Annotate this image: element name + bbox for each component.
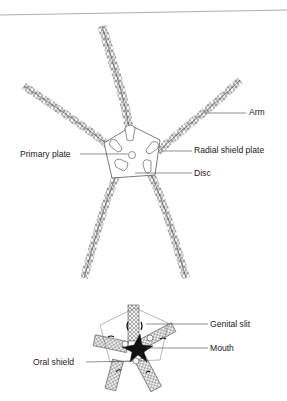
label-radial-shield-plate: Radial shield plate [194, 146, 264, 155]
oral-shield [133, 358, 139, 364]
arm-left [24, 86, 112, 148]
oral-view [93, 305, 176, 392]
label-primary-plate: Primary plate [20, 150, 71, 159]
label-arm: Arm [249, 108, 265, 117]
primary-plate [129, 152, 136, 159]
arm-right [158, 80, 240, 152]
label-oral-shield: Oral shield [33, 358, 74, 367]
label-genital-slit: Genital slit [210, 320, 250, 329]
label-disc: Disc [194, 169, 211, 178]
arm-bottom-left [84, 172, 118, 278]
oral-arm-bottom-left [105, 359, 123, 391]
top-rule [0, 10, 287, 15]
label-mouth: Mouth [210, 344, 234, 353]
oral-arm-top [128, 305, 139, 341]
arm-top [102, 26, 130, 138]
arm-bottom-right [150, 172, 186, 278]
brittle-star-diagram: Arm Radial shield plate Primary plate Di… [0, 0, 287, 401]
